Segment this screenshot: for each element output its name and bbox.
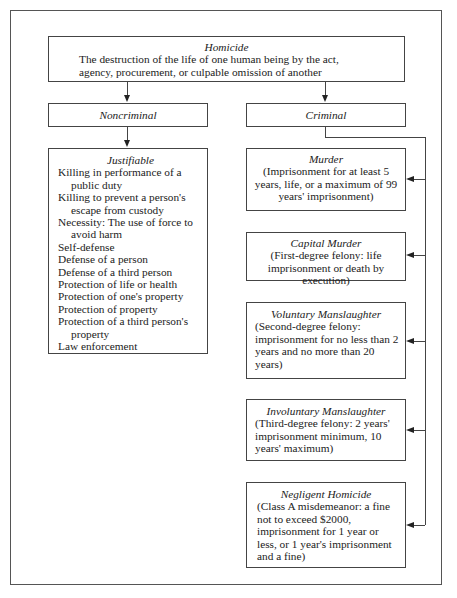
- murder-description: (Imprisonment for at least 5 years, life…: [253, 165, 399, 202]
- involuntary-manslaughter-box: Involuntary Manslaughter (Third-degree f…: [246, 399, 406, 461]
- arrow-down-icon: [124, 95, 130, 102]
- murder-title: Murder: [253, 153, 399, 165]
- justifiable-item: Defense of a third person: [58, 266, 203, 278]
- justifiable-item: Law enforcement: [58, 340, 203, 352]
- justifiable-item: Killing to prevent a person's escape fro…: [58, 191, 203, 216]
- justifiable-item: Killing in performance of a public duty: [58, 166, 203, 191]
- voluntary-manslaughter-title: Voluntary Manslaughter: [251, 308, 401, 320]
- justifiable-item: Protection of property: [58, 303, 203, 315]
- justifiable-item: Self-defense: [58, 241, 203, 253]
- arrow-left-icon: [406, 252, 414, 258]
- homicide-box: Homicide The destruction of the life of …: [48, 36, 405, 82]
- connector-criminal-right: [325, 137, 425, 138]
- justifiable-box: Justifiable Killing in performance of a …: [48, 148, 208, 354]
- involuntary-manslaughter-description: (Third-degree felony: 2 years' imprisonm…: [255, 417, 401, 454]
- connector-criminal-down: [325, 127, 326, 137]
- arrow-left-icon: [406, 522, 414, 528]
- justifiable-title: Justifiable: [58, 154, 203, 166]
- noncriminal-box: Noncriminal: [48, 103, 208, 127]
- capital-murder-box: Capital Murder (First-degree felony: lif…: [246, 232, 406, 281]
- involuntary-manslaughter-title: Involuntary Manslaughter: [251, 405, 401, 417]
- justifiable-item: Protection of a third person's property: [58, 315, 203, 340]
- arrow-left-icon: [406, 176, 414, 182]
- justifiable-item: Necessity: The use of force to avoid har…: [58, 216, 203, 241]
- negligent-homicide-title: Negligent Homicide: [251, 488, 401, 500]
- capital-murder-description: (First-degree felony: life imprisonment …: [250, 249, 402, 286]
- criminal-box: Criminal: [246, 103, 406, 127]
- noncriminal-title: Noncriminal: [49, 109, 207, 121]
- negligent-homicide-box: Negligent Homicide (Class A misdemeanor:…: [246, 482, 406, 568]
- homicide-title: Homicide: [49, 41, 404, 53]
- justifiable-item: Protection of one's property: [58, 290, 203, 302]
- negligent-homicide-description: (Class A misdemeanor: a fine not to exce…: [257, 500, 401, 562]
- arrow-down-icon: [124, 140, 130, 147]
- justifiable-item: Protection of life or health: [58, 278, 203, 290]
- arrow-left-icon: [406, 338, 414, 344]
- connector-criminal-bus: [425, 137, 426, 525]
- criminal-title: Criminal: [247, 109, 405, 121]
- arrow-left-icon: [406, 427, 414, 433]
- arrow-down-icon: [322, 95, 328, 102]
- justifiable-item: Defense of a person: [58, 253, 203, 265]
- murder-box: Murder (Imprisonment for at least 5 year…: [246, 148, 406, 211]
- homicide-description: The destruction of the life of one human…: [49, 53, 404, 78]
- voluntary-manslaughter-description: (Second-degree felony: imprisonment for …: [255, 320, 401, 370]
- voluntary-manslaughter-box: Voluntary Manslaughter (Second-degree fe…: [246, 302, 406, 379]
- capital-murder-title: Capital Murder: [250, 237, 402, 249]
